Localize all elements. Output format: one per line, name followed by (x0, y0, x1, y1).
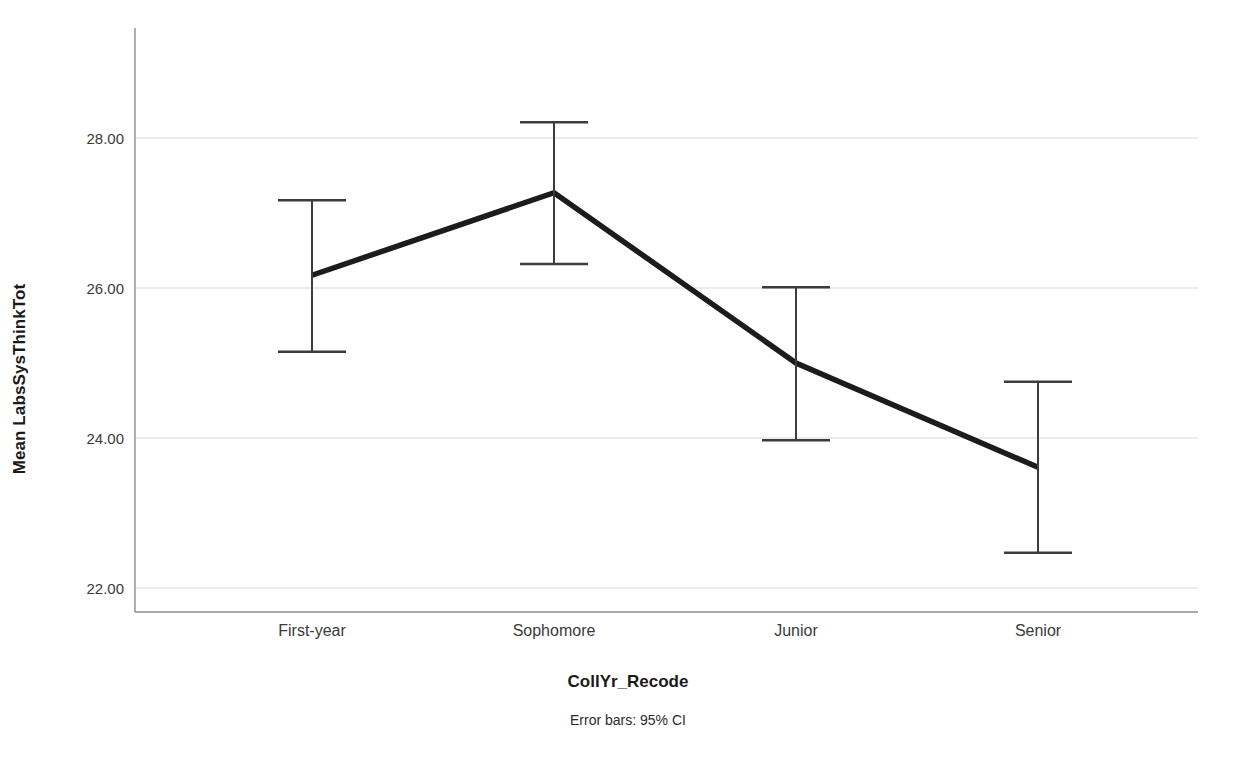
y-tick-label-22: 22.00 (58, 580, 124, 597)
error-bar-sophomore (520, 122, 588, 264)
error-bar-first-year (278, 200, 346, 352)
error-bar-senior (1004, 382, 1072, 553)
error-bars-footnote: Error bars: 95% CI (0, 712, 1256, 728)
error-bars (278, 122, 1072, 553)
error-bar-junior (762, 287, 830, 440)
x-tick-label-sophomore: Sophomore (434, 622, 674, 640)
line-chart-with-error-bars: Mean LabsSysThinkTot 28.00 26.00 24.00 2… (0, 0, 1256, 757)
y-tick-label-28: 28.00 (58, 130, 124, 147)
mean-line (312, 193, 1038, 468)
y-tick-label-26: 26.00 (58, 280, 124, 297)
series-line (312, 193, 1038, 468)
y-tick-label-24: 24.00 (58, 430, 124, 447)
x-axis-title: CollYr_Recode (0, 672, 1256, 692)
x-tick-label-senior: Senior (918, 622, 1158, 640)
x-tick-label-junior: Junior (676, 622, 916, 640)
chart-canvas (0, 0, 1256, 757)
x-tick-label-first-year: First-year (192, 622, 432, 640)
